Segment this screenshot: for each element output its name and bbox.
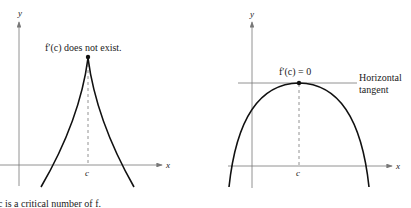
max-point: [297, 81, 301, 85]
caption: c is a critical number of f.: [0, 198, 101, 208]
right-x-label: x: [395, 161, 400, 171]
left-annotation: f′(c) does not exist.: [45, 42, 122, 54]
left-c-label: c: [85, 168, 89, 178]
critical-number-figure: y x c f′(c) does not exist. y x c f′(c) …: [0, 0, 411, 208]
right-graph: y x c f′(c) = 0 Horizontal tangent: [228, 9, 402, 188]
left-y-label: y: [17, 8, 22, 18]
right-y-label: y: [249, 9, 254, 19]
right-c-label: c: [296, 168, 300, 178]
left-x-label: x: [165, 160, 170, 170]
tangent-label-line2: tangent: [359, 84, 389, 95]
cusp-point: [86, 55, 90, 59]
left-graph: y x c f′(c) does not exist.: [0, 8, 170, 187]
right-annotation: f′(c) = 0: [279, 66, 311, 78]
tangent-label-line1: Horizontal: [359, 72, 402, 83]
